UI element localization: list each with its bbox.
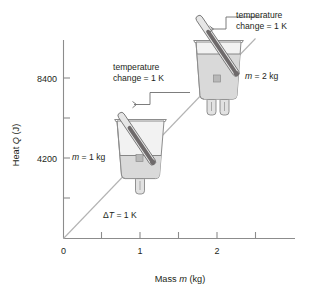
y-tick-labels-group: 4200 8400 <box>37 74 57 164</box>
y-axis-title: Heat Q (J) <box>11 124 21 166</box>
x-tick-label-1: 1 <box>137 246 142 256</box>
x-tick-label-0: 0 <box>61 246 66 256</box>
temp-change-right-line2: change = 1 K <box>236 21 287 31</box>
mass-2kg-symbol: m <box>245 71 252 81</box>
data-point-marker-1kg <box>136 155 143 162</box>
label-mass-1kg: m = 1 kg <box>72 152 105 162</box>
leader-line-temp-change-left <box>134 93 190 105</box>
beaker-illustration-1kg <box>115 93 191 195</box>
mass-2kg-rest: = 2 kg <box>252 71 278 81</box>
y-axis-title-symbol: Q <box>11 137 21 144</box>
temp-change-left-line2: change = 1 K <box>113 73 164 83</box>
mass-1kg-symbol: m <box>72 152 79 162</box>
x-tick-label-2: 2 <box>214 246 219 256</box>
heat-vs-mass-figure: 4200 8400 0 1 2 Mass m (kg) Heat Q (J) Δ… <box>0 0 309 295</box>
y-tick-label-8400: 8400 <box>37 74 57 84</box>
y-axis-title-group: Heat Q (J) <box>11 124 21 166</box>
chart-canvas: 4200 8400 0 1 2 Mass m (kg) Heat Q (J) Δ… <box>0 0 309 295</box>
x-axis-title-pre: Mass <box>155 274 180 284</box>
annotation-temp-change-left: temperature change = 1 K <box>113 62 164 83</box>
data-point-marker-2kg <box>214 75 221 82</box>
x-ticks-group <box>102 232 256 239</box>
y-tick-label-4200: 4200 <box>37 154 57 164</box>
label-mass-2kg: m = 2 kg <box>245 71 278 81</box>
y-axis-title-post: (J) <box>11 124 21 137</box>
mass-1kg-rest: = 1 kg <box>79 152 105 162</box>
y-ticks-group <box>64 78 71 198</box>
temp-change-right-line1: temperature <box>236 10 283 20</box>
annotation-delta-t: ΔT = 1 K <box>103 210 137 220</box>
x-axis-title: Mass m (kg) <box>155 274 206 284</box>
x-tick-labels-group: 0 1 2 <box>61 246 220 256</box>
annotation-temp-change-right: temperature change = 1 K <box>236 10 287 31</box>
y-axis-title-pre: Heat <box>11 144 21 166</box>
delta-t-rest: = 1 K <box>114 210 137 220</box>
x-axis-title-post: (kg) <box>187 274 205 284</box>
axes-group <box>64 40 296 239</box>
temp-change-left-line1: temperature <box>113 62 160 72</box>
